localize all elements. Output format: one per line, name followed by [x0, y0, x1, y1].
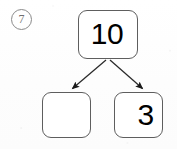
arrow-to-right-part — [110, 60, 143, 89]
number-bond-whole-box[interactable]: 10 — [78, 10, 138, 59]
problem-number-label: 7 — [19, 13, 25, 25]
number-bond-part-right-value: 3 — [137, 100, 153, 130]
arrow-to-left-part — [73, 60, 107, 89]
number-bond-worksheet-item: 7 10 3 — [0, 0, 177, 149]
problem-number-circle: 7 — [11, 9, 32, 30]
number-bond-part-right-box[interactable]: 3 — [114, 92, 163, 138]
number-bond-whole-value: 10 — [91, 19, 123, 49]
number-bond-part-left-box[interactable] — [42, 92, 91, 138]
